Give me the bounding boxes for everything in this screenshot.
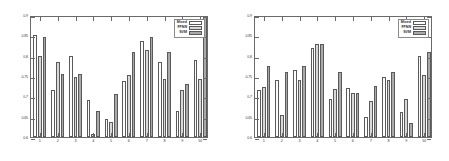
bar-svm-group-2: [61, 74, 65, 137]
x-axis-tick-label: 10: [198, 140, 202, 144]
series-swatch-svm-icon: [189, 31, 202, 35]
series-swatch-mixed-icon: [413, 21, 426, 25]
bar-mixed-group-8: [158, 62, 162, 137]
x-axis-tick-label: 1: [39, 140, 41, 144]
y-axis-tick: [203, 98, 207, 99]
bar-svm-group-5: [114, 94, 118, 137]
x-axis-tick: [147, 17, 148, 21]
x-axis-tick-label: 2: [281, 140, 283, 144]
bar-ffnn-group-9: [180, 90, 184, 137]
bar-mixed-group-3: [69, 56, 73, 137]
y-axis-tick: [31, 17, 35, 18]
bar-ffnn-group-1: [38, 56, 42, 137]
x-axis-tick-label: 3: [298, 140, 300, 144]
x-axis-tick: [182, 133, 183, 137]
series-swatch-ffnn-icon: [189, 26, 202, 30]
bar-mixed-group-7: [140, 41, 144, 137]
y-axis-tick: [203, 78, 207, 79]
x-axis-tick: [282, 17, 283, 21]
y-axis-tick: [203, 17, 207, 18]
bar-mixed-group-4: [87, 100, 91, 137]
bar-mixed-group-1: [257, 90, 261, 137]
plot-axes-right: Mixed FFNN SVM 0.60.650.70.750.80.850.91…: [254, 16, 432, 138]
series-swatch-ffnn-icon: [413, 26, 426, 30]
x-axis-tick: [371, 17, 372, 21]
bar-svm-group-9: [409, 123, 413, 137]
bar-svm-group-6: [356, 93, 360, 137]
x-axis-tick: [40, 133, 41, 137]
legend-label-svm: SVM: [401, 31, 411, 35]
x-axis-tick: [147, 133, 148, 137]
series-swatch-svm-icon: [413, 31, 426, 35]
plot-axes-left: Mixed FFNN SVM 0.60.650.70.750.80.850.91…: [30, 16, 208, 138]
bar-ffnn-group-1: [262, 87, 266, 137]
x-axis-tick: [353, 17, 354, 21]
bar-svm-group-8: [167, 52, 171, 137]
x-axis-tick: [111, 133, 112, 137]
bar-ffnn-group-7: [145, 50, 149, 137]
bar-mixed-group-1: [33, 35, 37, 137]
x-axis-tick: [389, 17, 390, 21]
x-axis-tick-label: 4: [316, 140, 318, 144]
y-axis-tick: [427, 119, 431, 120]
x-axis-tick: [76, 17, 77, 21]
bar-svm-group-3: [302, 66, 306, 137]
y-axis-tick-label: 0.85: [21, 36, 28, 40]
bar-mixed-group-2: [51, 90, 55, 137]
bar-mixed-group-6: [346, 88, 350, 137]
bar-ffnn-group-4: [315, 44, 319, 137]
y-axis-tick: [31, 58, 35, 59]
bar-ffnn-group-10: [422, 75, 426, 137]
x-axis-tick-label: 5: [110, 140, 112, 144]
bar-svm-group-6: [132, 52, 136, 137]
y-axis-tick: [31, 98, 35, 99]
chart-panel-right: Mixed FFNN SVM 0.60.650.70.750.80.850.91…: [224, 0, 448, 161]
x-axis-tick-label: 1: [263, 140, 265, 144]
bar-ffnn-group-6: [351, 93, 355, 137]
y-axis-tick: [203, 58, 207, 59]
bar-mixed-group-2: [275, 80, 279, 137]
y-axis-tick-label: 0.65: [21, 117, 28, 121]
x-axis-tick-label: 3: [74, 140, 76, 144]
bar-mixed-group-9: [400, 112, 404, 137]
x-axis-tick: [93, 133, 94, 137]
x-axis-tick-label: 7: [370, 140, 372, 144]
y-axis-tick: [255, 78, 259, 79]
bar-svm-group-1: [43, 37, 47, 137]
x-axis-tick-label: 6: [352, 140, 354, 144]
y-axis-tick-label: 0.6: [23, 137, 28, 141]
bar-svm-group-4: [96, 111, 100, 137]
x-axis-tick-label: 6: [128, 140, 130, 144]
bar-svm-group-7: [150, 37, 154, 137]
x-axis-tick: [58, 17, 59, 21]
x-axis-tick: [111, 17, 112, 21]
bar-chart-figure: Mixed FFNN SVM 0.60.650.70.750.80.850.91…: [0, 0, 449, 161]
bar-ffnn-group-8: [163, 79, 167, 137]
bar-ffnn-group-5: [333, 89, 337, 137]
y-axis-tick-label: 0.7: [23, 97, 28, 101]
y-axis-tick: [427, 98, 431, 99]
x-axis-tick: [165, 133, 166, 137]
x-axis-tick: [424, 133, 425, 137]
chart-panel-left: Mixed FFNN SVM 0.60.650.70.750.80.850.91…: [0, 0, 224, 161]
y-axis-tick: [427, 58, 431, 59]
bar-ffnn-group-9: [404, 99, 408, 137]
y-axis-tick: [255, 98, 259, 99]
y-axis-tick-label: 0.75: [21, 76, 28, 80]
x-axis-tick: [58, 133, 59, 137]
bar-mixed-group-3: [293, 70, 297, 137]
bar-svm-group-4: [320, 44, 324, 137]
x-axis-tick: [264, 17, 265, 21]
x-axis-tick: [317, 133, 318, 137]
bar-mixed-group-4: [311, 48, 315, 137]
bar-ffnn-group-7: [369, 101, 373, 137]
bar-ffnn-group-10: [198, 79, 202, 137]
y-axis-tick-label: 0.6: [247, 137, 252, 141]
y-axis-tick-label: 0.75: [245, 76, 252, 80]
x-axis-tick: [335, 133, 336, 137]
x-axis-tick: [300, 17, 301, 21]
bar-mixed-group-8: [382, 77, 386, 137]
x-axis-tick-label: 10: [422, 140, 426, 144]
bar-ffnn-group-3: [298, 80, 302, 137]
x-axis-tick: [93, 17, 94, 21]
